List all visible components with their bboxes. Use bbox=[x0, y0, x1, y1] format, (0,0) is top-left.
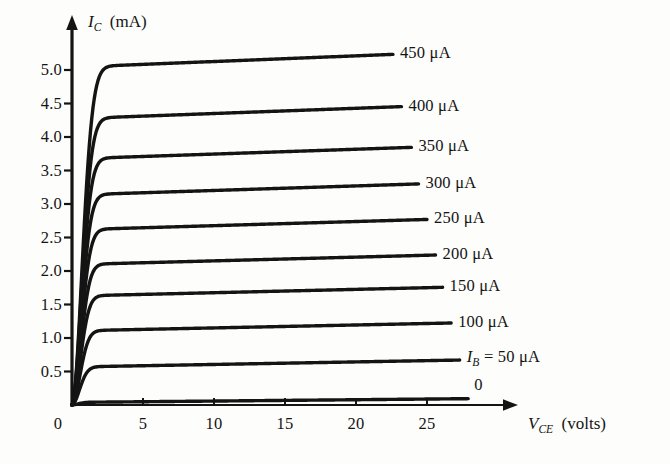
y-axis-title-unit: (mA) bbox=[110, 12, 147, 31]
x-tick-label: 5 bbox=[123, 414, 163, 434]
curve-label-450A: 450 μA bbox=[400, 43, 451, 63]
curve-label-50A: IB = 50 μA bbox=[467, 347, 540, 367]
curve-label-0: 0 bbox=[474, 375, 482, 395]
x-tick-label: 25 bbox=[407, 414, 447, 434]
y-tick-label: 4.5 bbox=[10, 94, 62, 114]
y-tick-label: 4.0 bbox=[10, 127, 62, 147]
curve-label-200A: 200 μA bbox=[443, 244, 494, 264]
x-axis-title-unit: (volts) bbox=[562, 414, 606, 433]
y-tick-label: 2.5 bbox=[10, 228, 62, 248]
x-axis-arrow-icon bbox=[503, 399, 518, 410]
y-axis-arrow-icon bbox=[66, 15, 78, 30]
y-tick-label: 5.0 bbox=[10, 60, 62, 80]
y-tick-label: 3.0 bbox=[10, 194, 62, 214]
curve-150A bbox=[72, 287, 443, 405]
y-axis-title: IC (mA) bbox=[88, 12, 147, 32]
characteristic-curves-plot bbox=[0, 0, 670, 464]
y-tick-label: 1.5 bbox=[10, 295, 62, 315]
x-axis-title-subscript: CE bbox=[538, 423, 553, 435]
curve-label-150A: 150 μA bbox=[450, 276, 501, 296]
curve-label-250A: 250 μA bbox=[434, 208, 485, 228]
curve-label-400A: 400 μA bbox=[408, 96, 459, 116]
origin-tick-label: 0 bbox=[48, 414, 68, 434]
x-tick-label: 10 bbox=[194, 414, 234, 434]
ib-label-subscript: B bbox=[472, 356, 479, 368]
figure-canvas: 5.04.54.03.53.02.52.01.51.00.5 510152025… bbox=[0, 0, 670, 464]
curve-label-300A: 300 μA bbox=[425, 173, 476, 193]
x-tick-label: 15 bbox=[265, 414, 305, 434]
y-tick-label: 1.0 bbox=[10, 328, 62, 348]
x-axis-title: VCE (volts) bbox=[528, 414, 606, 434]
y-tick-label: 3.5 bbox=[10, 161, 62, 181]
curve-label-100A: 100 μA bbox=[458, 312, 509, 332]
x-tick-label: 20 bbox=[336, 414, 376, 434]
ib-label-value: = 50 μA bbox=[480, 347, 541, 366]
curve-label-350A: 350 μA bbox=[418, 136, 469, 156]
y-tick-label: 2.0 bbox=[10, 261, 62, 281]
curve-250A bbox=[72, 219, 427, 405]
y-tick-label: 0.5 bbox=[10, 362, 62, 382]
x-axis-title-symbol: V bbox=[528, 414, 538, 433]
